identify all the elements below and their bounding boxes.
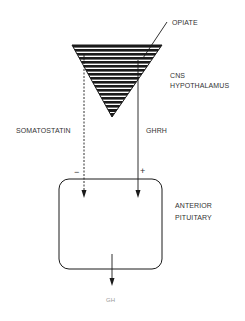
gh-output-label: GH bbox=[106, 296, 115, 305]
somatostatin-arrowhead-icon bbox=[82, 190, 87, 198]
cns-label: CNS bbox=[170, 71, 185, 80]
pituitary-label: PITUITARY bbox=[175, 213, 212, 222]
inhibition-sign: − bbox=[74, 168, 79, 177]
diagram-canvas bbox=[0, 0, 245, 321]
anterior-pituitary-box bbox=[59, 179, 162, 269]
ghrh-label: GHRH bbox=[146, 126, 167, 135]
somatostatin-label: SOMATOSTATIN bbox=[16, 126, 71, 135]
opiate-label: OPIATE bbox=[172, 18, 198, 27]
hypothalamus-label: HYPOTHALAMUS bbox=[170, 81, 229, 90]
ghrh-arrowhead-icon bbox=[136, 190, 141, 198]
stimulation-sign: + bbox=[140, 167, 145, 176]
gh-arrowhead-icon bbox=[110, 278, 115, 286]
anterior-label: ANTERIOR bbox=[175, 201, 212, 210]
